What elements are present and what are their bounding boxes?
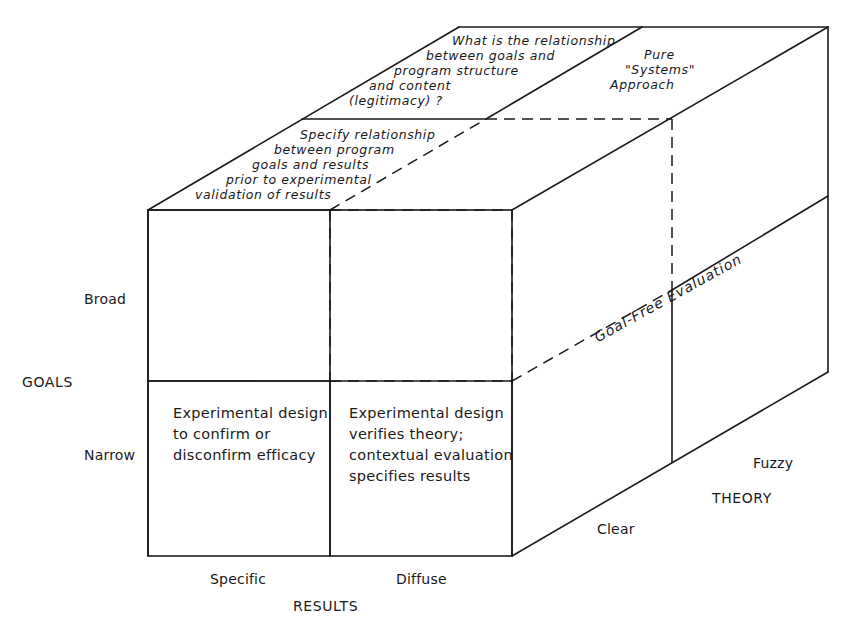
goals-level-narrow: Narrow <box>84 447 135 464</box>
results-level-specific: Specific <box>210 571 266 588</box>
top-back-right-note: Pure "Systems" Approach <box>590 47 700 92</box>
theory-level-fuzzy: Fuzzy <box>753 455 793 472</box>
theory-axis-title: THEORY <box>712 490 772 506</box>
theory-level-clear: Clear <box>597 521 635 538</box>
goals-axis-title: GOALS <box>22 374 73 390</box>
top-back-left-note: What is the relationship between goals a… <box>340 33 540 108</box>
goals-level-broad: Broad <box>84 291 126 308</box>
results-axis-title: RESULTS <box>293 598 358 614</box>
top-front-strip-note: Specify relationship between program goa… <box>160 127 360 202</box>
cell-narrow-diffuse: Experimental design verifies theory; con… <box>349 403 513 487</box>
results-level-diffuse: Diffuse <box>396 571 447 588</box>
cell-narrow-specific: Experimental design to confirm or discon… <box>173 403 328 466</box>
